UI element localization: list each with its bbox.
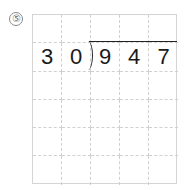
grid-cell[interactable]	[120, 15, 149, 43]
grid-cell[interactable]	[120, 72, 149, 100]
grid-cell[interactable]	[33, 128, 62, 156]
grid-cell[interactable]	[62, 72, 91, 100]
grid-cell[interactable]	[33, 15, 62, 43]
grid-cell[interactable]	[91, 156, 120, 185]
grid-cell[interactable]	[149, 100, 178, 128]
grid-cell[interactable]	[33, 100, 62, 128]
grid-cell[interactable]	[91, 15, 120, 43]
grid-cell[interactable]	[33, 156, 62, 185]
long-division-grid: 3 0 9 4 7	[32, 14, 177, 184]
grid-cell[interactable]	[62, 15, 91, 43]
grid-cell[interactable]	[91, 128, 120, 156]
grid-cell[interactable]	[91, 100, 120, 128]
grid-cell[interactable]	[149, 15, 178, 43]
dividend-digit: 4	[120, 43, 149, 72]
divisor-digit: 3	[33, 43, 62, 72]
division-bar	[89, 41, 177, 42]
grid-cell[interactable]	[149, 72, 178, 100]
grid-cell[interactable]	[91, 72, 120, 100]
grid-cell[interactable]	[120, 100, 149, 128]
grid-cell[interactable]	[149, 128, 178, 156]
division-bracket-icon	[83, 41, 93, 70]
grid-cell[interactable]	[149, 156, 178, 185]
dividend-digit: 9	[91, 43, 120, 72]
grid-cell[interactable]	[33, 72, 62, 100]
problem-number-badge: ⑤	[9, 12, 23, 26]
grid-cell[interactable]	[62, 128, 91, 156]
grid-cell[interactable]	[62, 156, 91, 185]
grid-cell[interactable]	[62, 100, 91, 128]
grid-cell[interactable]	[120, 156, 149, 185]
dividend-digit: 7	[149, 43, 178, 72]
grid-cell[interactable]	[120, 128, 149, 156]
